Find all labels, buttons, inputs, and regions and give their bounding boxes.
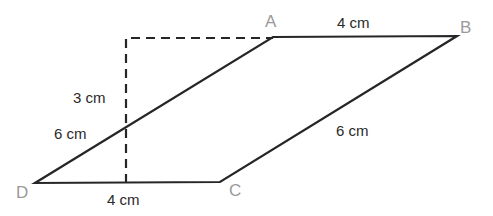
- label-ad-length: 6 cm: [54, 125, 87, 142]
- label-ab-length: 4 cm: [337, 14, 370, 31]
- vertex-label-d: D: [16, 183, 28, 202]
- parallelogram-abcd: [35, 36, 457, 183]
- vertex-label-c: C: [229, 181, 241, 200]
- vertex-label-a: A: [265, 12, 277, 31]
- height-dashed-line: [126, 38, 273, 183]
- label-bc-length: 6 cm: [336, 122, 369, 139]
- parallelogram-diagram: A B C D 4 cm 3 cm 6 cm 6 cm 4 cm: [0, 0, 493, 216]
- vertex-label-b: B: [460, 18, 471, 37]
- label-dc-length: 4 cm: [107, 191, 140, 208]
- label-height: 3 cm: [73, 89, 106, 106]
